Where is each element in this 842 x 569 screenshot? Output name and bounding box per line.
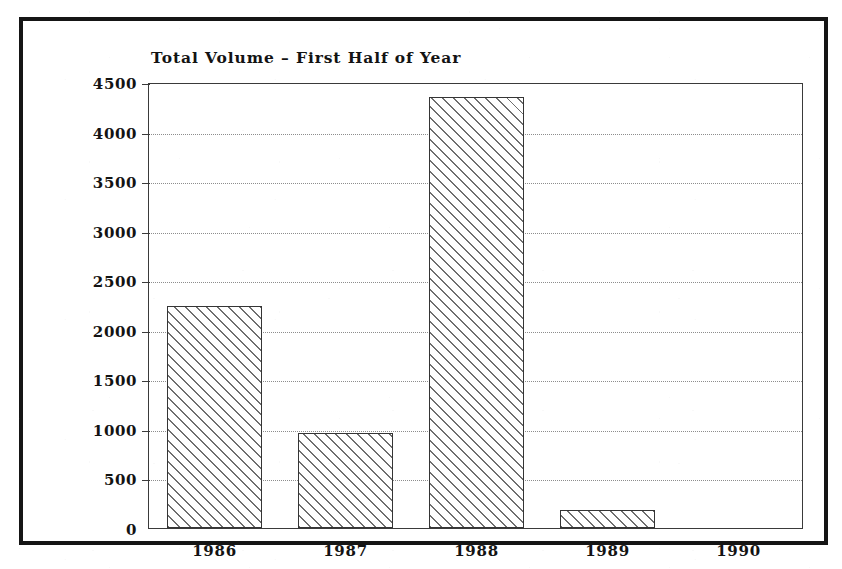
x-tick-label-1987: 1987	[323, 542, 368, 560]
x-tick-label-1990: 1990	[716, 542, 761, 560]
plot-area: 050010001500200025003000350040004500 198…	[148, 83, 803, 529]
y-tick-label: 1500	[93, 372, 137, 390]
x-tick-label-1989: 1989	[585, 542, 630, 560]
y-tick-label: 3000	[93, 224, 137, 242]
y-tick-label: 0	[126, 521, 137, 539]
bar-1986	[167, 306, 262, 528]
y-tick-label: 1000	[93, 422, 137, 440]
y-tick-label: 2500	[93, 273, 137, 291]
y-tick-label: 2000	[93, 323, 137, 341]
y-tick-mark	[142, 480, 150, 481]
y-tick-mark	[142, 282, 150, 283]
chart-outer-frame: Total Volume – First Half of Year 050010…	[19, 17, 828, 545]
y-tick-mark	[142, 134, 150, 135]
chart-title: Total Volume – First Half of Year	[151, 48, 461, 67]
x-tick-label-1988: 1988	[454, 542, 499, 560]
y-tick-mark	[142, 431, 150, 432]
chart-page: Total Volume – First Half of Year 050010…	[0, 0, 842, 569]
y-tick-label: 500	[104, 471, 137, 489]
x-tick-label-1986: 1986	[192, 542, 237, 560]
bar-1987	[298, 433, 393, 528]
y-tick-label: 4500	[93, 75, 137, 93]
bar-1988	[429, 97, 524, 528]
y-tick-mark	[142, 183, 150, 184]
y-tick-mark	[142, 233, 150, 234]
bar-1989	[560, 510, 655, 528]
y-tick-label: 3500	[93, 174, 137, 192]
y-tick-mark	[142, 332, 150, 333]
y-tick-mark	[142, 381, 150, 382]
y-tick-mark	[142, 84, 150, 85]
y-tick-label: 4000	[93, 125, 137, 143]
